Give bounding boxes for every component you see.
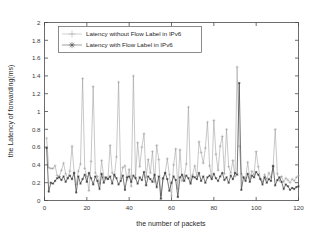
- x-tick-label: 40: [126, 204, 133, 211]
- asterisk-icon: [69, 42, 75, 48]
- x-tick-label: 20: [83, 204, 90, 211]
- y-tick-label: 1: [37, 108, 41, 115]
- x-tick-label: 60: [168, 204, 175, 211]
- x-tick-label: 0: [43, 204, 47, 211]
- y-tick-label: 0.2: [32, 179, 41, 186]
- y-tick-label: 0.6: [32, 143, 41, 150]
- x-tick-label: 80: [210, 204, 217, 211]
- y-tick-label: 1.6: [32, 54, 41, 61]
- y-tick-label: 0: [37, 197, 41, 204]
- chart-legend: Latency without Flow Label in IPv6 Laten…: [59, 27, 202, 53]
- y-tick-label: 2: [37, 19, 41, 26]
- y-tick-label: 0.8: [32, 126, 41, 133]
- latency-line-chart: 00.20.40.60.811.21.41.61.82 020406080100…: [0, 0, 315, 238]
- x-tick-label: 100: [251, 204, 262, 211]
- y-tick-label: 0.4: [32, 161, 41, 168]
- legend-label-without-flow-label: Latency without Flow Label in IPv6: [86, 30, 182, 37]
- x-tick-label: 120: [293, 204, 304, 211]
- legend-label-with-flow-label: Latency with Flow Label in IPv6: [86, 41, 173, 48]
- chart-figure: 00.20.40.60.811.21.41.61.82 020406080100…: [0, 0, 315, 238]
- y-tick-label: 1.4: [32, 72, 41, 79]
- y-axis-title: the Latency of forwarding(ms): [7, 65, 15, 158]
- y-tick-label: 1.2: [32, 90, 41, 97]
- y-tick-label: 1.8: [32, 37, 41, 44]
- x-axis-title: the number of packets: [136, 220, 206, 228]
